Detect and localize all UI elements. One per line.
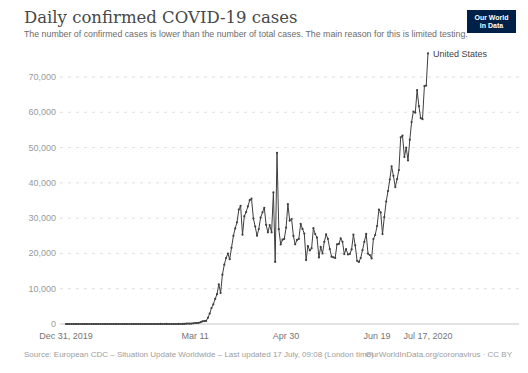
data-point	[214, 298, 216, 300]
data-point	[261, 211, 263, 213]
data-point	[365, 233, 367, 235]
data-point	[136, 323, 138, 325]
owid-chart-page: Daily confirmed COVID-19 cases The numbe…	[0, 0, 528, 373]
data-point	[292, 235, 294, 237]
data-point	[271, 231, 273, 233]
data-point	[421, 118, 423, 120]
data-point	[298, 238, 300, 240]
chart-svg[interactable]: 010,00020,00030,00040,00050,00060,00070,…	[0, 0, 528, 373]
data-point	[401, 135, 403, 137]
y-tick-label: 20,000	[28, 248, 56, 258]
data-point	[210, 307, 212, 309]
y-tick-label: 50,000	[28, 143, 56, 153]
data-point	[345, 248, 347, 250]
data-point	[174, 323, 176, 325]
data-point	[301, 228, 303, 230]
y-tick-label: 60,000	[28, 107, 56, 117]
data-point	[250, 198, 252, 200]
data-point	[407, 159, 409, 161]
data-point	[412, 110, 414, 112]
data-point	[291, 218, 293, 220]
series-label: United States	[433, 49, 488, 59]
data-point	[192, 322, 194, 324]
x-tick-label: Jun 19	[364, 331, 391, 341]
data-point	[258, 228, 260, 230]
data-point	[338, 243, 340, 245]
data-point	[318, 256, 320, 258]
data-point	[334, 257, 336, 259]
data-point	[418, 105, 420, 107]
data-point	[309, 249, 311, 251]
data-point	[398, 169, 400, 171]
y-tick-label: 30,000	[28, 213, 56, 223]
data-point	[205, 320, 207, 322]
data-point	[229, 258, 231, 260]
data-point	[247, 205, 249, 207]
data-point	[163, 323, 165, 325]
data-point	[394, 186, 396, 188]
data-point	[260, 217, 262, 219]
data-point	[374, 234, 376, 236]
data-point	[303, 233, 305, 235]
data-point	[218, 283, 220, 285]
data-point	[249, 199, 251, 201]
data-point	[376, 225, 378, 227]
data-point	[400, 136, 402, 138]
data-point	[89, 323, 91, 325]
data-point	[340, 237, 342, 239]
data-point	[283, 238, 285, 240]
data-point	[265, 224, 267, 226]
data-point	[209, 312, 211, 314]
data-point	[307, 245, 309, 247]
data-point	[69, 323, 71, 325]
data-point	[372, 238, 374, 240]
data-point	[414, 112, 416, 114]
data-point	[154, 323, 156, 325]
data-point	[127, 323, 129, 325]
data-point	[116, 323, 118, 325]
data-point	[425, 85, 427, 87]
data-point	[276, 152, 278, 154]
data-point	[321, 252, 323, 254]
data-point	[336, 243, 338, 245]
data-point	[369, 254, 371, 256]
data-point	[392, 175, 394, 177]
data-point	[351, 248, 353, 250]
data-point	[354, 244, 356, 246]
data-line	[66, 53, 428, 324]
data-point	[363, 241, 365, 243]
data-point	[240, 205, 242, 207]
data-point	[220, 292, 222, 294]
data-point	[252, 218, 254, 220]
x-tick-label: Dec 31, 2019	[39, 331, 93, 341]
data-point	[383, 216, 385, 218]
data-point	[269, 224, 271, 226]
data-point	[300, 223, 302, 225]
data-point	[378, 209, 380, 211]
data-point	[230, 247, 232, 249]
x-tick-label: Apr 30	[273, 331, 300, 341]
data-point	[343, 253, 345, 255]
data-point	[287, 203, 289, 205]
data-point	[427, 52, 429, 54]
data-point	[361, 249, 363, 251]
data-point	[405, 147, 407, 149]
data-point	[272, 191, 274, 193]
data-point	[238, 209, 240, 211]
data-point	[201, 320, 203, 322]
data-point	[352, 234, 354, 236]
credit-link[interactable]: OurWorldInData.org/coronavirus · CC BY	[365, 350, 512, 359]
data-point	[358, 261, 360, 263]
data-point	[107, 323, 109, 325]
data-point	[227, 252, 229, 254]
data-point	[409, 139, 411, 141]
data-point	[232, 235, 234, 237]
data-point	[387, 190, 389, 192]
y-tick-label: 10,000	[28, 284, 56, 294]
data-point	[367, 253, 369, 255]
data-point	[341, 241, 343, 243]
data-point	[221, 274, 223, 276]
data-point	[98, 323, 100, 325]
data-point	[312, 227, 314, 229]
data-point	[145, 323, 147, 325]
